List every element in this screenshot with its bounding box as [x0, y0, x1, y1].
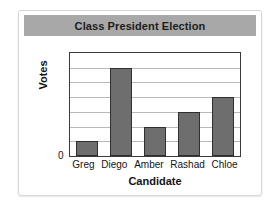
chart-card: Class President Election Votes 0 GregDie…: [18, 10, 262, 196]
chart-title-band: Class President Election: [24, 15, 256, 36]
x-tick-label: Greg: [72, 159, 94, 170]
bar-series: [70, 53, 240, 156]
x-axis-tick-labels: GregDiegoAmberRashadChloe: [69, 159, 241, 170]
bar-amber: [144, 127, 166, 156]
x-axis-title: Candidate: [69, 175, 241, 187]
bar-greg: [76, 141, 98, 156]
bar-chloe: [212, 97, 234, 156]
plot-area: [69, 52, 241, 157]
bar-diego: [110, 68, 132, 156]
y-axis-title: Votes: [37, 45, 49, 105]
x-tick-label: Diego: [101, 159, 127, 170]
y-axis-tick-0: 0: [58, 150, 64, 161]
x-tick-label: Chloe: [211, 159, 237, 170]
chart-title: Class President Election: [75, 20, 206, 32]
x-tick-label: Rashad: [170, 159, 204, 170]
x-tick-label: Amber: [134, 159, 163, 170]
bar-rashad: [178, 112, 200, 156]
